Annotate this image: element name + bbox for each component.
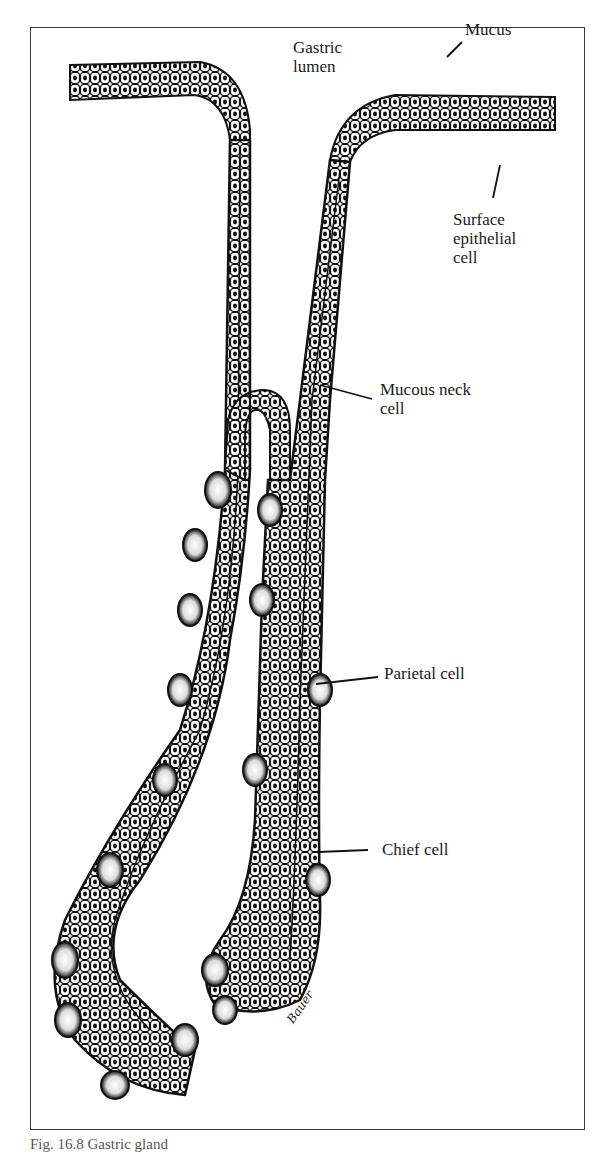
label-gastric-lumen: Gastric lumen — [293, 38, 342, 76]
loop-tube — [225, 390, 290, 480]
label-mucus: Mucus — [465, 20, 511, 39]
label-surface-epithelial-cell: Surface epithelial cell — [453, 210, 516, 267]
label-parietal-cell: Parietal cell — [384, 664, 465, 683]
chief-leader — [318, 850, 368, 852]
label-mucous-neck-cell: Mucous neck cell — [380, 380, 471, 418]
mucus-leader — [447, 42, 462, 57]
surface-epithelium-left — [70, 62, 250, 140]
figure-caption: Fig. 16.8 Gastric gland — [30, 1136, 168, 1153]
surface-epithelium-right — [330, 95, 555, 162]
label-chief-cell: Chief cell — [382, 840, 449, 859]
surface-cell-leader — [493, 165, 500, 198]
